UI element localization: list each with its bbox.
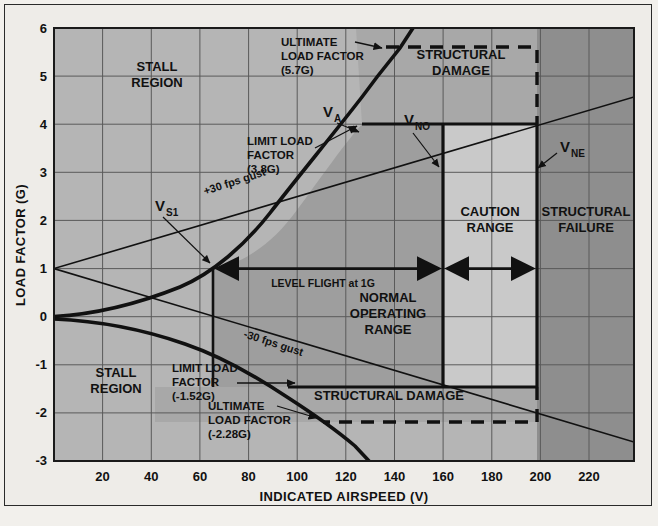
ult-neg-line1: ULTIMATE — [208, 400, 265, 412]
y-tick-2: 2 — [40, 213, 47, 228]
x-tick-140: 140 — [384, 469, 406, 484]
x-tick-160: 160 — [432, 469, 454, 484]
x-axis-title: INDICATED AIRSPEED (V) — [259, 489, 428, 504]
ult-pos-line1: ULTIMATE — [281, 36, 338, 48]
v-a-sub: A — [334, 113, 341, 124]
ult-neg-line3: (-2.28G) — [208, 428, 251, 440]
v-s1-base: V — [155, 197, 165, 214]
region-label-structural-damage-lower: STRUCTURAL DAMAGE — [314, 388, 464, 403]
region-label-caution-range: CAUTION RANGE — [460, 204, 519, 235]
y-tick-5: 5 — [40, 69, 47, 84]
vn-diagram-svg: 6 5 4 3 2 1 0 -1 -2 -3 20 40 60 80 100 1… — [5, 5, 651, 505]
region-caution-range — [443, 124, 537, 387]
x-tick-40: 40 — [144, 469, 158, 484]
v-no-base: V — [404, 111, 414, 128]
x-tick-180: 180 — [481, 469, 503, 484]
label-level-flight: LEVEL FLIGHT at 1G — [271, 277, 375, 289]
sf-line2: FAILURE — [558, 220, 614, 235]
region-label-stall-lower: STALL REGION — [90, 365, 141, 396]
lim-pos-line1: LIMIT LOAD — [247, 135, 313, 147]
caution-line1: CAUTION — [460, 204, 519, 219]
v-s1-sub: S1 — [166, 207, 179, 218]
v-ne-base: V — [560, 138, 570, 155]
v-a-base: V — [323, 103, 333, 120]
lim-pos-line2: FACTOR — [247, 149, 295, 161]
sd-upper-line2: DAMAGE — [432, 63, 490, 78]
sd-upper-line1: STRUCTURAL — [417, 47, 506, 62]
v-no-sub: NO — [415, 121, 430, 132]
vn-diagram-page: 6 5 4 3 2 1 0 -1 -2 -3 20 40 60 80 100 1… — [0, 0, 658, 526]
ult-pos-line2: LOAD FACTOR — [281, 50, 365, 62]
y-tick-0: 0 — [40, 309, 47, 324]
stall-lower-line1: STALL — [96, 365, 137, 380]
stall-lower-line2: REGION — [90, 381, 141, 396]
x-tick-100: 100 — [286, 469, 308, 484]
region-structural-failure — [537, 28, 634, 461]
caution-line2: RANGE — [467, 220, 514, 235]
v-ne-sub: NE — [571, 148, 585, 159]
x-tick-120: 120 — [335, 469, 357, 484]
nor-line1: NORMAL — [359, 290, 416, 305]
nor-line3: RANGE — [365, 322, 412, 337]
x-tick-60: 60 — [193, 469, 207, 484]
lim-neg-line1: LIMIT LOAD — [172, 362, 238, 374]
ult-pos-line3: (5.7G) — [281, 64, 314, 76]
stall-upper-line2: REGION — [131, 75, 182, 90]
nor-line2: OPERATING — [350, 306, 426, 321]
stall-upper-line1: STALL — [137, 59, 178, 74]
x-tick-80: 80 — [241, 469, 255, 484]
y-tick-1: 1 — [40, 261, 47, 276]
y-tick-4: 4 — [40, 117, 48, 132]
y-tick-neg1: -1 — [35, 357, 47, 372]
x-axis-ticks: 20 40 60 80 100 120 140 160 180 200 220 — [95, 469, 599, 484]
x-tick-220: 220 — [578, 469, 600, 484]
y-tick-6: 6 — [40, 21, 47, 36]
y-tick-neg3: -3 — [35, 453, 47, 468]
region-label-stall-upper: STALL REGION — [131, 59, 182, 90]
y-tick-neg2: -2 — [35, 405, 47, 420]
figure-frame: 6 5 4 3 2 1 0 -1 -2 -3 20 40 60 80 100 1… — [4, 4, 652, 506]
y-tick-3: 3 — [40, 165, 47, 180]
y-axis-title: LOAD FACTOR (G) — [13, 184, 28, 306]
sf-line1: STRUCTURAL — [542, 204, 631, 219]
x-tick-200: 200 — [530, 469, 552, 484]
lim-neg-line2: FACTOR — [172, 376, 220, 388]
ult-neg-line2: LOAD FACTOR — [208, 414, 292, 426]
y-axis-ticks: 6 5 4 3 2 1 0 -1 -2 -3 — [35, 21, 47, 468]
x-tick-20: 20 — [95, 469, 109, 484]
